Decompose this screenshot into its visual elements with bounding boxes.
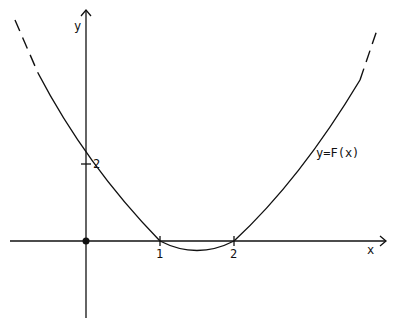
x-tick-label-2: 2	[230, 247, 237, 261]
curve-label: y=F(x)	[316, 146, 359, 160]
y-tick-label-2: 2	[93, 157, 100, 171]
curve-dashed-right	[360, 27, 378, 80]
x-axis-label: x	[367, 243, 374, 257]
function-graph: y x 1 2 2 y=F(x)	[0, 0, 393, 326]
x-tick-label-1: 1	[156, 247, 163, 261]
origin-point	[83, 238, 90, 245]
y-axis-label: y	[74, 19, 81, 33]
curve-dashed-left	[15, 20, 38, 73]
